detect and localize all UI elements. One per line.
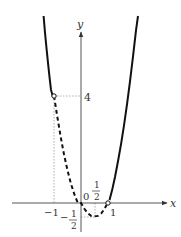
- y-axis-label: y: [76, 18, 84, 31]
- curve-left-solid: [44, 16, 53, 97]
- label-y-4: 4: [84, 91, 91, 104]
- label-x-1: 1: [110, 207, 116, 218]
- x-half-num: 1: [94, 180, 100, 190]
- origin-label: 0: [83, 191, 89, 202]
- curve-right-solid: [110, 16, 139, 200]
- label-x-neg1: −1: [44, 207, 59, 218]
- y-neg-half-sign: −: [60, 212, 68, 223]
- y-neg-half-den: 2: [71, 221, 77, 231]
- open-point-left: [52, 94, 56, 98]
- y-neg-half-num: 1: [71, 209, 77, 219]
- x-half-den: 2: [94, 192, 100, 202]
- open-point-right: [106, 201, 110, 205]
- graph-canvas: y x 4 0 1 2 −1 1 − 1 2: [0, 0, 181, 237]
- x-axis-label: x: [170, 197, 177, 210]
